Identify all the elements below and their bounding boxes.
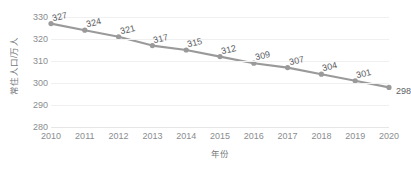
plot-area xyxy=(51,17,389,127)
x-axis-tick-labels: 2010201120122013201420152016201720182019… xyxy=(51,131,389,147)
data-point-label: 298 xyxy=(396,86,411,96)
gridline xyxy=(51,61,389,62)
x-axis-tick-label: 2020 xyxy=(379,131,399,141)
x-axis-tick-label: 2018 xyxy=(311,131,331,141)
y-axis-tick-label: 310 xyxy=(14,56,48,66)
gridline xyxy=(51,127,389,128)
gridline xyxy=(51,17,389,18)
gridline xyxy=(51,83,389,84)
x-axis-tick-label: 2016 xyxy=(244,131,264,141)
y-axis-tick-label: 330 xyxy=(14,12,48,22)
x-axis-tick-label: 2013 xyxy=(142,131,162,141)
y-axis-tick-label: 290 xyxy=(14,100,48,110)
x-axis-tick-label: 2010 xyxy=(41,131,61,141)
series-line-svg xyxy=(51,17,389,127)
x-axis-tick-label: 2012 xyxy=(109,131,129,141)
x-axis-tick-label: 2019 xyxy=(345,131,365,141)
x-axis-tick-label: 2015 xyxy=(210,131,230,141)
data-point-marker[interactable] xyxy=(386,85,391,90)
x-axis-tick-label: 2014 xyxy=(176,131,196,141)
x-axis-tick-label: 2017 xyxy=(278,131,298,141)
y-axis-tick-labels: 280290300310320330 xyxy=(12,0,48,170)
x-axis-title: 年份 xyxy=(211,147,229,159)
y-axis-tick-label: 300 xyxy=(14,78,48,88)
gridline xyxy=(51,105,389,106)
y-axis-tick-label: 320 xyxy=(14,34,48,44)
gridline xyxy=(51,39,389,40)
x-axis-tick-label: 2011 xyxy=(75,131,94,141)
